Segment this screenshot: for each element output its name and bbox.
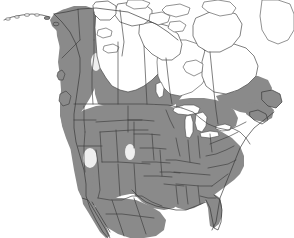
- aleutian-island-3: [24, 14, 29, 17]
- aleutian-island-4: [35, 14, 40, 16]
- gap-great-basin-nevada: [83, 148, 97, 168]
- aleutian-island-1: [6, 18, 11, 20]
- range-map-figure: [0, 0, 294, 238]
- north-america-map-canvas: [0, 0, 294, 238]
- aleutian-island-2: [15, 16, 20, 18]
- kodiak-island: [53, 22, 59, 26]
- water-lake-michigan: [185, 115, 193, 138]
- aleutian-island-5: [44, 17, 50, 20]
- gap-great-basin-utah: [125, 144, 135, 160]
